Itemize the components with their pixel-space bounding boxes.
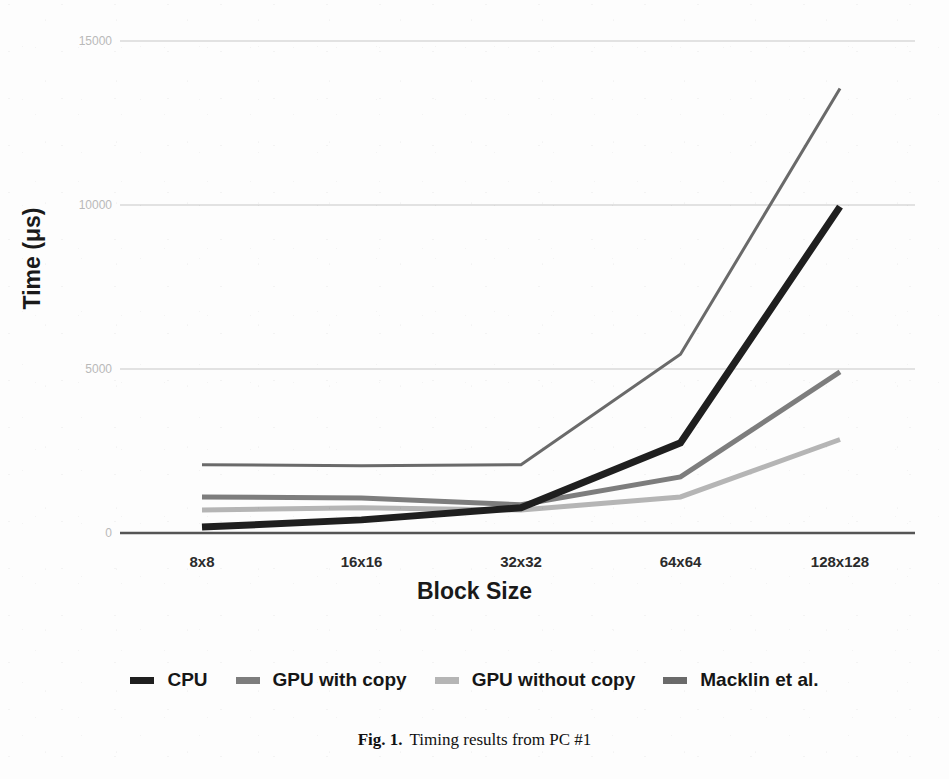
legend-item-macklin-et-al[interactable]: Macklin et al. — [663, 669, 818, 691]
x-tick-label-8x8: 8x8 — [142, 553, 262, 570]
legend-item-gpu-without-copy[interactable]: GPU without copy — [435, 669, 636, 691]
caption-label: Fig. 1. — [358, 730, 403, 749]
y-tick-label-15000: 15000 — [42, 35, 112, 47]
legend-label: Macklin et al. — [700, 669, 818, 691]
legend-label: GPU without copy — [472, 669, 636, 691]
x-tick-label-16x16: 16x16 — [302, 553, 422, 570]
x-axis-title: Block Size — [0, 578, 949, 605]
legend-item-gpu-with-copy[interactable]: GPU with copy — [236, 669, 407, 691]
y-axis-title: Time (μs) — [19, 189, 46, 329]
gridlines — [120, 41, 915, 369]
x-tick-label-32x32: 32x32 — [461, 553, 581, 570]
legend-label: CPU — [167, 669, 207, 691]
chart-legend: CPUGPU with copyGPU without copyMacklin … — [0, 660, 949, 700]
legend-label: GPU with copy — [273, 669, 407, 691]
series-line-gpu-with-copy — [202, 372, 840, 505]
y-tick-label-10000: 10000 — [42, 199, 112, 211]
data-series-group — [202, 89, 840, 528]
legend-swatch-icon — [663, 677, 687, 684]
y-tick-label-5000: 5000 — [42, 363, 112, 375]
figure-container: 050001000015000 8x816x1632x3264x64128x12… — [0, 0, 949, 779]
legend-swatch-icon — [435, 677, 459, 684]
legend-swatch-icon — [236, 677, 260, 684]
y-tick-label-0: 0 — [42, 527, 112, 539]
x-tick-label-64x64: 64x64 — [621, 553, 741, 570]
figure-caption: Fig. 1.Timing results from PC #1 — [0, 730, 949, 750]
series-line-macklin-et-al — [202, 89, 840, 466]
x-tick-label-128x128: 128x128 — [780, 553, 900, 570]
series-line-cpu — [202, 207, 840, 527]
legend-item-cpu[interactable]: CPU — [130, 669, 207, 691]
plot-area: 050001000015000 8x816x1632x3264x64128x12… — [0, 0, 949, 600]
legend-swatch-icon — [130, 677, 154, 684]
chart-svg — [0, 0, 949, 600]
caption-text: Timing results from PC #1 — [410, 730, 592, 749]
